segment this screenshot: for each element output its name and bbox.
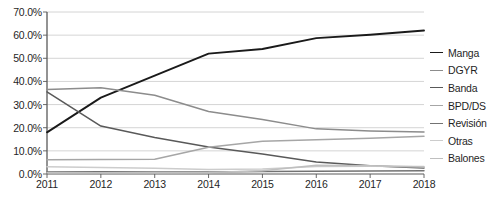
legend-label: BPD/DS: [448, 100, 486, 112]
x-tick-label: 2015: [251, 178, 274, 190]
y-tick-label: 10.0%: [13, 145, 42, 157]
series-line-dgyr: [47, 88, 424, 132]
series-line-bpd-ds: [47, 136, 424, 159]
x-tick-label: 2016: [305, 178, 328, 190]
legend-item-banda[interactable]: Banda: [430, 79, 496, 97]
y-tick-label: 50.0%: [13, 52, 42, 64]
legend-label: Manga: [448, 47, 479, 59]
legend-item-manga[interactable]: Manga: [430, 44, 496, 62]
legend-label: DGYR: [448, 64, 478, 76]
legend-swatch-icon: [430, 105, 443, 106]
legend-swatch-icon: [430, 140, 443, 141]
legend-item-revisi-n[interactable]: Revisión: [430, 114, 496, 132]
line-chart: 0.0%10.0%20.0%30.0%40.0%50.0%60.0%70.0% …: [0, 0, 496, 211]
x-tick-label: 2011: [36, 178, 58, 190]
legend-item-balones[interactable]: Balones: [430, 150, 496, 168]
legend-label: Otras: [448, 135, 473, 147]
legend-label: Balones: [448, 152, 485, 164]
x-axis: 20112012201320142015201620172018: [47, 178, 424, 200]
plot-area: [47, 12, 424, 174]
x-tick-label: 2014: [197, 178, 220, 190]
legend-label: Revisión: [448, 117, 487, 129]
x-tick-label: 2018: [413, 178, 436, 190]
x-tick-label: 2017: [359, 178, 382, 190]
y-tick-label: 40.0%: [13, 75, 42, 87]
legend-label: Banda: [448, 82, 477, 94]
series-line-banda: [47, 92, 424, 168]
chart-legend: MangaDGYRBandaBPD/DSRevisiónOtrasBalones: [430, 44, 496, 167]
legend-swatch-icon: [430, 158, 443, 159]
x-tick-label: 2012: [90, 178, 113, 190]
y-tick-label: 30.0%: [13, 99, 42, 111]
series-line-manga: [47, 31, 424, 133]
y-tick-label: 60.0%: [13, 29, 42, 41]
legend-item-otras[interactable]: Otras: [430, 132, 496, 150]
x-tick-label: 2013: [143, 178, 166, 190]
legend-swatch-icon: [430, 87, 443, 88]
legend-swatch-icon: [430, 123, 443, 124]
y-tick-label: 70.0%: [13, 6, 42, 18]
series-line-otras: [47, 166, 424, 169]
legend-item-dgyr[interactable]: DGYR: [430, 62, 496, 80]
y-axis: 0.0%10.0%20.0%30.0%40.0%50.0%60.0%70.0%: [0, 12, 42, 174]
series-lines: [47, 12, 424, 174]
legend-swatch-icon: [430, 70, 443, 71]
legend-item-bpd-ds[interactable]: BPD/DS: [430, 97, 496, 115]
y-tick-label: 20.0%: [13, 122, 42, 134]
legend-swatch-icon: [430, 52, 443, 53]
